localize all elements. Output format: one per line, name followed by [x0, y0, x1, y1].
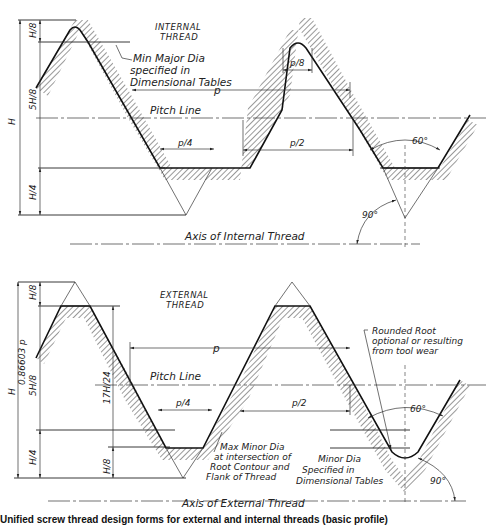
dim-5H8-internal: 5H/8 — [28, 88, 38, 110]
rounded-root-callout-3: from tool wear — [372, 346, 439, 356]
dim-H4-external: H/4 — [28, 449, 38, 465]
internal-thread-title-2: THREAD — [160, 32, 198, 42]
minor-dia-callout-2: Specified in — [302, 465, 355, 475]
external-pitch-label: p — [212, 342, 220, 354]
dim-H8-internal: H/8 — [28, 22, 38, 38]
internal-angle-60: 60° — [412, 136, 428, 146]
internal-pitch-label: p — [213, 84, 221, 96]
min-major-callout-1: Min Major Dia — [133, 52, 205, 64]
external-angle-60: 60° — [410, 404, 426, 414]
max-minor-callout-4: Flank of Thread — [206, 472, 276, 482]
internal-pitch-line-label: Pitch Line — [150, 104, 201, 116]
dim-H-internal: H — [7, 118, 17, 125]
internal-root-flat-label: p/4 — [177, 138, 193, 148]
internal-half-pitch-label: p/2 — [289, 138, 305, 148]
max-minor-callout-3: Root Contour and — [210, 462, 290, 472]
minor-dia-callout-3: Dimensional Tables — [296, 476, 384, 486]
minor-dia-callout-1: Minor Dia — [318, 454, 361, 464]
external-thread-section: EXTERNAL THREAD p Pitch Line p/4 p/2 60°… — [7, 282, 486, 509]
rounded-root-callout-2: optional or resulting — [372, 336, 463, 346]
external-half-pitch-label: p/2 — [291, 398, 307, 408]
min-major-callout-2: specified in — [130, 64, 190, 76]
dim-H-value-external: 0.86603 p — [17, 339, 27, 385]
external-thread-title-2: THREAD — [166, 300, 204, 310]
figure-caption: Unified screw thread design forms for ex… — [0, 514, 388, 525]
dim-17H24-external: 17H/24 — [102, 371, 112, 404]
dim-H8-root-external: H/8 — [102, 458, 112, 474]
external-thread-title-1: EXTERNAL — [160, 290, 209, 300]
internal-thread-section: INTERNAL THREAD Min Major Dia specified … — [7, 18, 486, 250]
max-minor-callout-2: at intersection of — [214, 452, 293, 462]
crest-flat-label: p/8 — [289, 58, 305, 68]
max-minor-callout-1: Max Minor Dia — [220, 442, 284, 452]
dim-5H8-external: 5H/8 — [28, 374, 38, 396]
internal-angle-90: 90° — [362, 210, 378, 220]
internal-axis-label: Axis of Internal Thread — [184, 230, 305, 242]
internal-thread-title-1: INTERNAL — [155, 22, 201, 32]
external-root-flat-label: p/4 — [175, 398, 191, 408]
dim-H-external: H — [7, 388, 17, 395]
external-axis-label: Axis of External Thread — [181, 497, 305, 509]
dim-H8-top-external: H/8 — [28, 284, 38, 300]
dim-H4-internal: H/4 — [28, 184, 38, 200]
external-angle-90: 90° — [430, 476, 446, 486]
rounded-root-callout-1: Rounded Root — [372, 326, 436, 336]
external-pitch-line-label: Pitch Line — [150, 370, 201, 382]
